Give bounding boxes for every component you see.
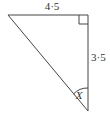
right-side-label: 3·5	[91, 51, 106, 63]
triangle-diagram: 4·5 3·5 X	[0, 0, 110, 116]
right-angle-marker	[79, 15, 88, 24]
top-side-label: 4·5	[45, 0, 60, 12]
angle-label: X	[75, 89, 84, 101]
